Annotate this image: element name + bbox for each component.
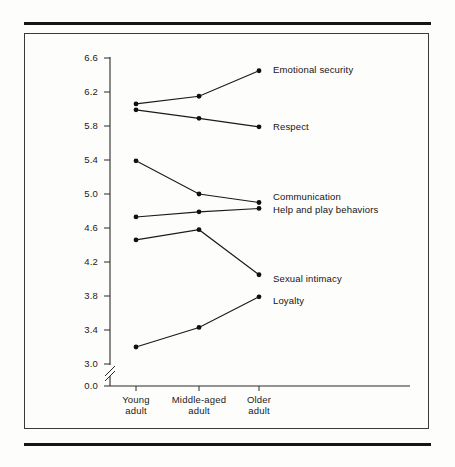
y-tick-label-3-4: 3.4 <box>68 324 98 335</box>
axis-break-slash-1 <box>105 366 115 376</box>
series-label-loyalty: Loyalty <box>273 295 304 306</box>
data-point <box>197 192 202 197</box>
data-point <box>257 68 262 73</box>
series-label-communication: Communication <box>273 191 341 202</box>
data-point <box>134 215 139 220</box>
data-point <box>257 294 262 299</box>
data-point <box>257 272 262 277</box>
series-label-sexual-intimacy: Sexual intimacy <box>273 273 342 284</box>
data-point <box>134 107 139 112</box>
series-respect <box>134 107 268 129</box>
data-point <box>197 227 202 232</box>
series-communication <box>134 158 268 204</box>
data-point <box>197 325 202 330</box>
series-label-respect: Respect <box>273 121 309 132</box>
data-point <box>197 94 202 99</box>
series-help-and-play-behaviors <box>134 206 268 219</box>
data-point <box>134 238 139 243</box>
series-layer <box>134 68 268 349</box>
y-tick-label-5-4: 5.4 <box>68 154 98 165</box>
data-point <box>134 158 139 163</box>
series-line <box>136 297 259 347</box>
series-line <box>136 230 259 275</box>
data-point <box>134 102 139 107</box>
series-sexual-intimacy <box>134 227 268 277</box>
series-label-help-and-play: Help and play behaviors <box>273 204 378 215</box>
y-tick-label-3-8: 3.8 <box>68 290 98 301</box>
data-point <box>257 200 262 205</box>
series-line <box>136 161 259 203</box>
y-tick-label-6-6: 6.6 <box>68 52 98 63</box>
figure-page: 6.6 6.2 5.8 5.4 5.0 4.6 4.2 3.8 3.4 3.0 … <box>0 0 455 467</box>
series-emotional-security <box>134 68 268 106</box>
y-tick-label-5-8: 5.8 <box>68 120 98 131</box>
data-point <box>197 116 202 121</box>
data-point <box>197 209 202 214</box>
data-point <box>134 345 139 350</box>
data-point <box>257 124 262 129</box>
series-label-emotional-security: Emotional security <box>273 64 353 75</box>
x-tick-label-older-adult-line1: Older <box>217 394 301 406</box>
series-loyalty <box>134 294 268 349</box>
y-tick-label-3-0: 3.0 <box>68 358 98 369</box>
y-tick-label-6-2: 6.2 <box>68 86 98 97</box>
x-tick-label-older-adult-line2: adult <box>217 405 301 417</box>
y-tick-label-0-0: 0.0 <box>68 380 98 391</box>
y-tick-label-4-6: 4.6 <box>68 222 98 233</box>
y-tick-label-4-2: 4.2 <box>68 256 98 267</box>
data-point <box>257 206 262 211</box>
series-line <box>136 71 259 104</box>
y-tick-label-5-0: 5.0 <box>68 188 98 199</box>
